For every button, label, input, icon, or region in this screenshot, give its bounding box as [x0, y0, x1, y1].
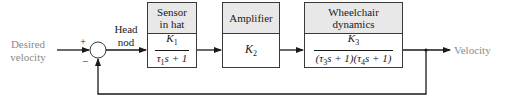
- sensor-title-line2: in hat: [157, 18, 187, 30]
- minus-sign: −: [80, 55, 90, 68]
- amplifier-block-title: Amplifier: [223, 3, 279, 34]
- wheelchair-dynamics-block: Wheelchair dynamics K3 (τ3s + 1)(τ4s + 1…: [304, 2, 403, 68]
- wheelchair-den-part2: s + 1)(τ: [327, 52, 361, 64]
- output-label: Velocity: [454, 44, 506, 57]
- block-diagram: Desired velocity + − Head nod Sensor in …: [0, 0, 510, 109]
- plus-sign: +: [78, 35, 88, 48]
- input-label-line1: Desired: [0, 38, 56, 51]
- head-nod-line2: nod: [108, 36, 144, 49]
- head-nod-label: Head nod: [108, 23, 144, 49]
- amplifier-gain-symbol: K: [245, 42, 253, 56]
- wheelchair-transfer-function: K3 (τ3s + 1)(τ4s + 1): [305, 34, 402, 67]
- wheelchair-title-line1: Wheelchair: [328, 6, 379, 18]
- sensor-den-rest: s + 1: [165, 52, 188, 64]
- amplifier-title: Amplifier: [229, 12, 272, 24]
- sensor-block-title: Sensor in hat: [148, 3, 196, 34]
- wheelchair-den-part3: s + 1): [365, 52, 391, 64]
- input-label: Desired velocity: [0, 38, 56, 64]
- head-nod-line1: Head: [108, 23, 144, 36]
- sensor-num: K: [166, 32, 173, 44]
- amplifier-gain: K2: [223, 34, 279, 67]
- sensor-num-sub: 1: [174, 38, 178, 47]
- wheelchair-title-line2: dynamics: [328, 18, 379, 30]
- wheelchair-num-sub: 3: [355, 38, 359, 47]
- wheelchair-block-title: Wheelchair dynamics: [305, 3, 402, 34]
- input-label-line2: velocity: [0, 51, 56, 64]
- amplifier-block: Amplifier K2: [222, 2, 280, 68]
- wheelchair-den-part1: (τ: [316, 52, 324, 64]
- summing-junction: [90, 42, 106, 58]
- sensor-transfer-function: K1 τ1s + 1: [148, 34, 196, 67]
- amplifier-gain-sub: 2: [253, 50, 257, 59]
- sensor-block: Sensor in hat K1 τ1s + 1: [147, 2, 197, 68]
- sensor-title-line1: Sensor: [157, 6, 187, 18]
